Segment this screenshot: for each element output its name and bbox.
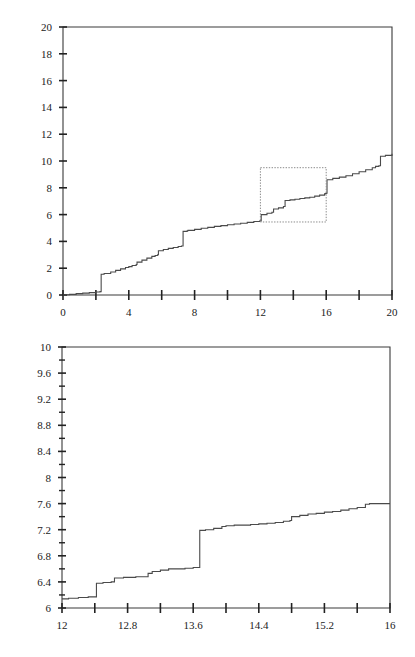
y-axis-tick-label: 8.4: [37, 445, 51, 457]
y-axis-tick-label: 8: [46, 472, 52, 484]
y-axis-tick-label: 7.6: [37, 498, 51, 510]
figure-container: 02468101214161820048121620 66.46.87.27.6…: [0, 0, 415, 657]
data-series-curve: [63, 154, 392, 295]
y-axis-tick-label: 0: [47, 289, 53, 301]
zoom-region-box: [260, 168, 326, 222]
y-axis-tick-label: 6: [47, 209, 53, 221]
plot-frame: [62, 347, 390, 608]
x-axis-tick-label: 12: [57, 619, 68, 631]
y-axis-tick-label: 7.2: [37, 524, 51, 536]
x-axis-tick-label: 4: [126, 306, 132, 318]
detail-chart-panel: 66.46.87.27.688.48.89.29.6101212.813.614…: [0, 330, 415, 657]
y-axis-tick-label: 16: [41, 75, 53, 87]
y-axis-tick-label: 10: [40, 341, 52, 353]
data-series-curve: [62, 504, 390, 599]
x-axis-tick-label: 13.6: [184, 619, 204, 631]
y-axis-tick-label: 8.8: [37, 419, 51, 431]
plot-frame: [63, 27, 392, 295]
y-axis-tick-label: 6.4: [37, 576, 51, 588]
y-axis-tick-label: 20: [41, 21, 53, 33]
x-axis-tick-label: 12.8: [118, 619, 138, 631]
x-axis-tick-label: 20: [387, 306, 399, 318]
x-axis-tick-label: 16: [321, 306, 333, 318]
x-axis-tick-label: 16: [385, 619, 397, 631]
detail-chart-svg: 66.46.87.27.688.48.89.29.6101212.813.614…: [0, 330, 415, 657]
x-axis-tick-label: 12: [255, 306, 266, 318]
y-axis-tick-label: 10: [41, 155, 53, 167]
y-axis-tick-label: 4: [47, 235, 53, 247]
y-axis-tick-label: 6: [46, 602, 52, 614]
x-axis-tick-label: 14.4: [249, 619, 269, 631]
y-axis-tick-label: 9.2: [37, 393, 51, 405]
x-axis-tick-label: 8: [192, 306, 198, 318]
x-axis-tick-label: 15.2: [315, 619, 334, 631]
y-axis-tick-label: 18: [41, 48, 53, 60]
y-axis-tick-label: 9.6: [37, 367, 51, 379]
y-axis-tick-label: 6.8: [37, 550, 51, 562]
y-axis-tick-label: 2: [47, 262, 53, 274]
x-axis-tick-label: 0: [60, 306, 66, 318]
y-axis-tick-label: 14: [41, 101, 53, 113]
y-axis-tick-label: 12: [41, 128, 52, 140]
overview-chart-panel: 02468101214161820048121620: [0, 0, 415, 330]
y-axis-tick-label: 8: [47, 182, 53, 194]
overview-chart-svg: 02468101214161820048121620: [0, 0, 415, 330]
